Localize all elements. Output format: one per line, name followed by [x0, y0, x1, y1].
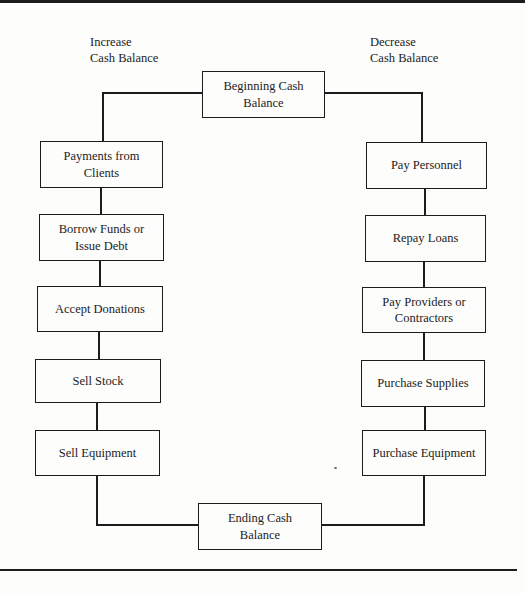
top-rule [0, 0, 525, 3]
node-pay-personnel: Pay Personnel [366, 142, 487, 189]
bottom-rule [0, 569, 517, 571]
node-beginning-cash-balance: Beginning Cash Balance [202, 71, 325, 118]
connector-right-2 [423, 261, 425, 288]
node-payments-from-clients: Payments from Clients [40, 141, 163, 188]
scan-artifact-dot [334, 467, 337, 469]
node-purchase-supplies: Purchase Supplies [361, 360, 485, 407]
connector-bottom-right-horizontal [322, 524, 425, 526]
connector-right-4 [424, 406, 426, 431]
connector-left-2 [99, 260, 101, 287]
connector-left-5 [96, 475, 98, 526]
connector-top-left-horizontal [103, 92, 203, 94]
column-header-decrease: Decrease Cash Balance [370, 35, 438, 66]
node-purchase-equipment: Purchase Equipment [362, 430, 486, 476]
column-header-increase: Increase Cash Balance [90, 35, 158, 66]
node-ending-cash-balance: Ending Cash Balance [198, 503, 322, 550]
connector-top-right-vertical [421, 92, 423, 143]
node-sell-equipment: Sell Equipment [35, 430, 160, 476]
connector-top-left-vertical [102, 92, 104, 142]
node-pay-providers-or-contractors: Pay Providers or Contractors [362, 287, 486, 333]
connector-right-5 [423, 475, 425, 526]
connector-right-1 [424, 188, 426, 216]
node-accept-donations: Accept Donations [37, 286, 163, 332]
connector-left-4 [96, 402, 98, 431]
connector-right-3 [423, 332, 425, 361]
connector-left-3 [98, 331, 100, 360]
connector-bottom-left-horizontal [96, 524, 198, 526]
cash-flow-diagram-page: Increase Cash Balance Decrease Cash Bala… [0, 0, 525, 594]
node-borrow-funds-or-issue-debt: Borrow Funds or Issue Debt [39, 214, 164, 261]
connector-top-right-horizontal [324, 92, 423, 94]
node-sell-stock: Sell Stock [35, 359, 161, 403]
node-repay-loans: Repay Loans [365, 215, 486, 262]
connector-left-1 [100, 187, 102, 215]
